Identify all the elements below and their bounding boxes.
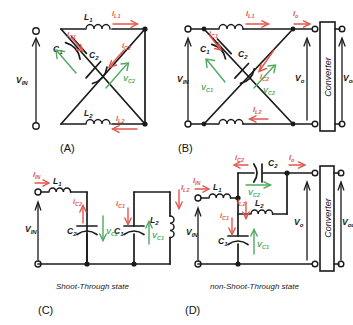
panel-label-a: (A) bbox=[60, 142, 75, 154]
node-a-top-right bbox=[142, 26, 147, 31]
arrow-il1-b bbox=[246, 21, 269, 27]
label-l1-a: L1 bbox=[84, 12, 93, 23]
label-ic2-a: iC2 bbox=[122, 41, 131, 51]
terminal-a-bottom bbox=[33, 123, 39, 129]
label-vc2-d: VC2 bbox=[248, 188, 260, 198]
label-il2-a: IL2 bbox=[116, 114, 124, 124]
inductor-l1-c bbox=[49, 188, 71, 192]
panel-d: VIN L1 bbox=[186, 156, 353, 324]
label-converter-b: Converter bbox=[323, 56, 333, 97]
label-converter-d: Converter bbox=[323, 197, 333, 238]
label-il1-b: IL1 bbox=[246, 9, 254, 19]
terminal-d-top bbox=[195, 195, 201, 201]
panel-b: VIN bbox=[176, 0, 353, 165]
inductor-l2-c bbox=[170, 216, 174, 238]
label-vin-a: VIN bbox=[16, 75, 28, 86]
panel-label-c: (C) bbox=[38, 304, 53, 316]
label-c1-a: C1 bbox=[53, 44, 63, 55]
terminal-d-conv-top-left bbox=[312, 170, 318, 176]
node-a-bottom-right bbox=[142, 121, 147, 126]
arrow-iin-d bbox=[195, 186, 209, 192]
figure-canvas: VIN L1 L2 bbox=[0, 0, 353, 325]
terminal-a-top bbox=[33, 28, 39, 34]
label-l2-a: L2 bbox=[84, 108, 93, 119]
terminal-b-conv-top-left bbox=[312, 26, 318, 32]
label-iin-c: IIN bbox=[33, 170, 41, 180]
label-il1-a: IL1 bbox=[112, 9, 120, 19]
label-l2-c: L2 bbox=[150, 215, 159, 226]
arrow-io-d bbox=[289, 162, 305, 168]
arrow-il2-a bbox=[113, 126, 138, 133]
label-ic1-c: iC1 bbox=[116, 199, 125, 209]
label-c1-b: C1 bbox=[200, 44, 210, 55]
label-vin-d: VIN bbox=[186, 227, 198, 238]
label-vout-d: Vout bbox=[342, 217, 353, 228]
label-vc2-a: VC2 bbox=[123, 74, 135, 84]
label-l1-c: L1 bbox=[53, 176, 62, 187]
capacitor-c2-d bbox=[254, 164, 262, 182]
label-vc2-b: VC2 bbox=[263, 86, 275, 96]
inductor-l1-a bbox=[86, 25, 110, 29]
arrow-il1-a bbox=[113, 21, 138, 28]
label-ic1-d: iC1 bbox=[220, 211, 229, 221]
label-vc1-d: VC1 bbox=[257, 240, 269, 250]
label-io-b: Io bbox=[293, 9, 299, 19]
inductor-l1-b bbox=[219, 25, 243, 29]
panel-c: VIN C2 bbox=[22, 168, 197, 323]
label-vc1-b: VC1 bbox=[201, 83, 213, 93]
arrow-vc1-b bbox=[206, 59, 225, 82]
inductor-l1-d bbox=[209, 194, 231, 198]
terminal-b-conv-bottom-left bbox=[312, 121, 318, 127]
arrow-io-b bbox=[294, 21, 310, 27]
label-ic1-b: iC1 bbox=[209, 29, 218, 39]
arrow-il2-b bbox=[250, 116, 269, 122]
label-c1-d: C1 bbox=[218, 236, 228, 247]
terminal-b-top bbox=[185, 26, 191, 32]
label-vin-c: VIN bbox=[25, 224, 37, 235]
label-ic1-a: iC1 bbox=[67, 30, 76, 40]
state-label-c: Shoot-Through state bbox=[56, 282, 129, 291]
label-ic2-c: iC2 bbox=[73, 197, 82, 207]
label-vc1-c: VC1 bbox=[152, 231, 164, 241]
label-il2-d: IL2 bbox=[237, 197, 245, 207]
panel-a: VIN L1 L2 bbox=[0, 0, 175, 165]
panel-label-d: (D) bbox=[185, 304, 200, 316]
label-vo-d: Vo bbox=[294, 217, 304, 228]
terminal-d-conv-bottom-left bbox=[312, 261, 318, 267]
label-il2-b: IL2 bbox=[253, 105, 261, 115]
terminal-b-bottom bbox=[185, 121, 191, 127]
label-l1-d: L1 bbox=[213, 182, 222, 193]
inductor-l2-a bbox=[86, 120, 110, 124]
arrow-vc1-a bbox=[56, 50, 76, 73]
label-iin-d: IIN bbox=[193, 176, 201, 186]
capacitor-c1-a bbox=[65, 37, 86, 59]
label-vout-b: Vout bbox=[343, 73, 353, 84]
terminal-c-top bbox=[35, 189, 41, 195]
inductor-l2-b bbox=[219, 120, 243, 124]
label-l2-d: L2 bbox=[255, 198, 264, 209]
arrow-ic1-d bbox=[229, 218, 235, 235]
inductor-l2-d bbox=[251, 210, 273, 214]
arrow-iin-c bbox=[35, 180, 49, 186]
arrow-ic2-a bbox=[109, 50, 124, 68]
label-c2-a: C2 bbox=[89, 50, 99, 61]
label-c2-c: C2 bbox=[67, 226, 77, 237]
arrow-ic2-d bbox=[234, 162, 248, 168]
arrow-ic2-c bbox=[80, 205, 86, 223]
label-vo-b: Vo bbox=[295, 73, 305, 84]
arrow-ic1-c bbox=[125, 208, 131, 225]
panel-label-b: (B) bbox=[178, 142, 193, 154]
label-c2-d: C2 bbox=[268, 158, 278, 169]
state-label-d: non-Shoot-Through state bbox=[210, 282, 299, 291]
label-c2-b: C2 bbox=[238, 49, 248, 60]
arrow-il2-c bbox=[176, 190, 182, 209]
